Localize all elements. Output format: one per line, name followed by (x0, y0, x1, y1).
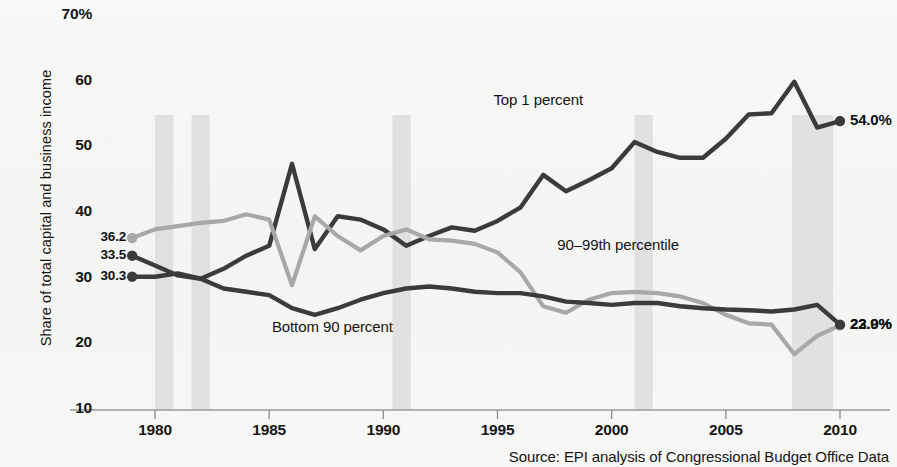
chart-root: Share of total capital and business inco… (0, 0, 897, 467)
x-tick-label: 2010 (805, 421, 875, 439)
axis-lines (70, 410, 890, 419)
series-endpoint-markers (127, 116, 845, 331)
start-value-label: 36.2 (78, 229, 126, 244)
line-chart-plot (0, 0, 897, 467)
series-line-1 (132, 214, 840, 354)
source-note: Source: EPI analysis of Congressional Bu… (509, 448, 889, 465)
start-value-label: 33.5 (78, 247, 126, 262)
x-tick-label: 1990 (348, 421, 418, 439)
y-tick-label: 10 (36, 399, 92, 417)
series-annotation: Top 1 percent (493, 91, 583, 108)
end-marker (835, 116, 845, 126)
x-tick-label: 1995 (463, 421, 533, 439)
y-tick-label: 70% (36, 5, 92, 23)
series-lines (132, 82, 840, 355)
y-tick-label: 20 (36, 333, 92, 351)
start-value-label: 30.3 (78, 268, 126, 283)
recession-band (635, 115, 653, 410)
x-tick-label: 1980 (120, 421, 190, 439)
y-tick-label: 40 (36, 202, 92, 220)
series-annotation: 90–99th percentile (557, 236, 679, 253)
start-marker (127, 250, 137, 260)
recession-band (192, 115, 210, 410)
end-marker (835, 319, 845, 329)
end-value-label: 23.0% (850, 315, 892, 332)
recession-band (392, 115, 410, 410)
recession-band (155, 115, 173, 410)
y-tick-label: 60 (36, 71, 92, 89)
x-tick-label: 1985 (234, 421, 304, 439)
recession-band (792, 115, 833, 410)
x-tick-label: 2005 (691, 421, 761, 439)
recession-bands (155, 115, 833, 410)
start-marker (127, 271, 137, 281)
end-value-label: 54.0% (850, 111, 892, 128)
y-tick-label: 50 (36, 136, 92, 154)
start-marker (127, 233, 137, 243)
series-annotation: Bottom 90 percent (272, 318, 393, 335)
x-tick-label: 2000 (577, 421, 647, 439)
